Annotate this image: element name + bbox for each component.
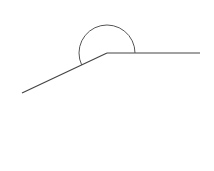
angle-diagram <box>0 0 214 171</box>
angle-arc <box>79 25 135 65</box>
diagram-canvas <box>0 0 214 171</box>
left-ray <box>22 53 107 93</box>
